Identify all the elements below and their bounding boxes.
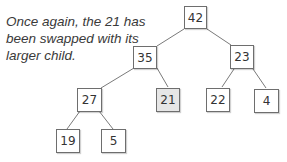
edge-35-21	[157, 68, 168, 87]
edge-23-4	[253, 69, 266, 88]
tree-node-5: 5	[101, 129, 126, 153]
tree-node-22: 22	[206, 88, 230, 112]
edge-35-27	[101, 68, 134, 88]
edge-27-19	[67, 111, 80, 129]
edge-27-5	[99, 111, 113, 129]
tree-node-27: 27	[77, 88, 102, 112]
tree-edges	[0, 0, 287, 162]
tree-node-23: 23	[230, 45, 254, 69]
tree-node-4: 4	[254, 89, 279, 113]
tree-node-19: 19	[56, 129, 80, 153]
edge-23-22	[222, 69, 234, 87]
tree-node-42: 42	[184, 6, 207, 29]
edge-42-23	[207, 29, 231, 45]
tree-node-21-highlighted: 21	[156, 88, 180, 112]
edge-42-35	[157, 29, 184, 46]
tree-node-35: 35	[133, 46, 157, 69]
